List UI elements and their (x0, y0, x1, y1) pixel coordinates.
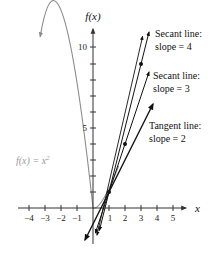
secant-4-label-line1: Secant line: (155, 28, 202, 39)
x-tick-label: 2 (123, 213, 128, 223)
function-label-exponent: 2 (46, 154, 50, 162)
function-label-text: f(x) = x (16, 155, 47, 167)
x-tick-label: 3 (139, 213, 144, 223)
x-axis: −4 −3 −2 −1 1 2 3 4 5 x (18, 202, 200, 223)
x-tick-label: −4 (24, 213, 34, 223)
point-3-9 (139, 62, 143, 66)
x-tick-label: −3 (40, 213, 50, 223)
secant-line-slope-4 (99, 32, 149, 230)
tangent-label-line1: Tangent line: (149, 120, 201, 131)
secant-3-label: Secant line: slope = 3 (153, 70, 200, 94)
x-tick-label: −2 (56, 213, 66, 223)
y-axis-label: f(x) (85, 10, 101, 23)
y-tick-label: 5 (83, 123, 88, 133)
secant-4-label-line2: slope = 4 (155, 41, 192, 52)
chart: −4 −3 −2 −1 1 2 3 4 5 x 5 10 f(x) (0, 0, 217, 254)
x-tick-label: 1 (108, 213, 113, 223)
x-axis-label: x (194, 202, 200, 214)
tangent-label-line2: slope = 2 (149, 133, 186, 144)
secant-3-label-line1: Secant line: (153, 70, 200, 81)
x-tick-label: 5 (171, 213, 176, 223)
point-1-1 (107, 190, 111, 194)
svg-text:f(x) = x2: f(x) = x2 (16, 154, 50, 167)
tangent-label: Tangent line: slope = 2 (149, 120, 201, 144)
y-axis: 5 10 f(x) (78, 10, 101, 244)
parabola-curve (40, 1, 118, 209)
x-tick-label: 4 (155, 213, 160, 223)
x-tick-label: −1 (72, 213, 82, 223)
secant-4-label: Secant line: slope = 4 (155, 28, 202, 52)
secant-3-label-line2: slope = 3 (153, 83, 190, 94)
point-2-4 (123, 142, 127, 146)
secant-line-intermediate (97, 37, 143, 236)
function-label: f(x) = x2 (16, 154, 50, 167)
y-tick-label: 10 (78, 42, 88, 52)
